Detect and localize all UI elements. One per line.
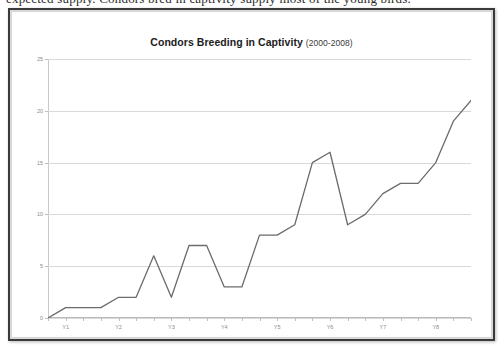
chart-title-main: Condors Breeding in Captivity: [150, 36, 303, 48]
x-tick-mark-9: [207, 318, 208, 321]
line-series: [48, 59, 471, 318]
x-tick-mark-7: [171, 318, 172, 321]
x-tick-label-Y4: Y4: [221, 324, 228, 330]
x-tick-mark-6: [154, 318, 155, 321]
plot-area: 0510152025 Y1Y2Y3Y4Y5Y6Y7Y8: [48, 59, 471, 318]
y-tick-label-10: 10: [37, 211, 43, 217]
cut-off-body-text: expected supply. Condors bred in captivi…: [0, 0, 503, 7]
x-tick-mark-24: [471, 318, 472, 321]
chart-canvas: Condors Breeding in Captivity (2000-2008…: [14, 14, 489, 335]
x-tick-mark-22: [436, 318, 437, 321]
y-tick-label-15: 15: [37, 160, 43, 166]
x-tick-mark-14: [295, 318, 296, 321]
x-tick-mark-3: [101, 318, 102, 321]
figure-frame: Condors Breeding in Captivity (2000-2008…: [8, 8, 495, 341]
x-tick-mark-12: [260, 318, 261, 321]
x-tick-mark-23: [453, 318, 454, 321]
x-tick-mark-21: [418, 318, 419, 321]
x-tick-label-Y1: Y1: [62, 324, 69, 330]
x-tick-mark-5: [136, 318, 137, 321]
series-polyline: [48, 100, 471, 318]
y-tick-label-25: 25: [37, 56, 43, 62]
x-tick-label-Y6: Y6: [327, 324, 334, 330]
y-tick-label-0: 0: [40, 315, 43, 321]
x-tick-label-Y7: Y7: [380, 324, 387, 330]
x-tick-mark-1: [66, 318, 67, 321]
x-tick-mark-17: [348, 318, 349, 321]
x-tick-mark-18: [365, 318, 366, 321]
x-tick-label-Y5: Y5: [274, 324, 281, 330]
y-tick-label-5: 5: [40, 263, 43, 269]
x-tick-mark-15: [312, 318, 313, 321]
chart-title-subtitle: (2000-2008): [306, 38, 353, 48]
y-tick-label-20: 20: [37, 108, 43, 114]
x-tick-label-Y2: Y2: [115, 324, 122, 330]
x-tick-mark-4: [119, 318, 120, 321]
x-tick-mark-19: [383, 318, 384, 321]
x-tick-mark-10: [224, 318, 225, 321]
x-tick-mark-11: [242, 318, 243, 321]
x-tick-mark-0: [48, 318, 49, 321]
x-tick-mark-16: [330, 318, 331, 321]
x-tick-label-Y3: Y3: [168, 324, 175, 330]
page-title: Condors Breeding in Captivity (2000-2008…: [14, 36, 489, 48]
x-tick-mark-13: [277, 318, 278, 321]
x-tick-label-Y8: Y8: [432, 324, 439, 330]
x-tick-mark-2: [83, 318, 84, 321]
x-tick-mark-20: [401, 318, 402, 321]
x-tick-mark-8: [189, 318, 190, 321]
